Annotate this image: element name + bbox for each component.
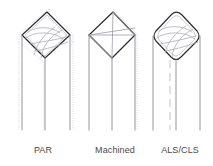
machined-ghost-outline [113,9,137,130]
timber-profile-diagram: PAR Machined ALS/CLS [0,0,213,166]
caption-par: PAR [4,145,82,156]
timber-figure-par [19,9,73,130]
par-top-face [22,12,70,58]
als-grain-lines [157,26,198,57]
timber-figure-machined [89,9,137,130]
als-post-edges [153,36,200,130]
machined-face-diagonals [89,12,135,58]
caption-als-cls: ALS/CLS [149,145,211,156]
caption-row: PAR Machined ALS/CLS [0,140,213,160]
timber-figure-als-cls [153,12,200,130]
caption-machined: Machined [84,145,146,156]
par-post-edges [22,35,70,130]
par-ghost-outline [19,9,73,130]
